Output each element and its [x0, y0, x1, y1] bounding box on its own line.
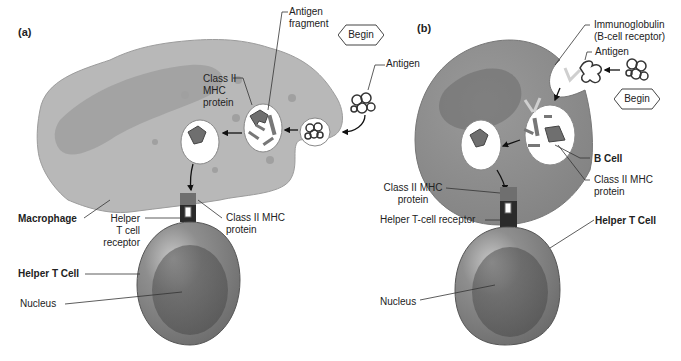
helper-t-receptor-label-b: Helper T-cell receptor — [380, 214, 475, 226]
label-line: protein — [380, 194, 446, 206]
label-line: receptor — [100, 237, 140, 249]
class2-mhc-inner-label: Class II MHC protein — [203, 73, 236, 109]
class2-mhc-outer-label: Class II MHC protein — [226, 212, 285, 236]
label-line: T cell — [100, 225, 140, 237]
label-line: fragment — [289, 18, 328, 30]
helper-t-cell-label-a: Helper T Cell — [18, 268, 79, 280]
macrophage-label: Macrophage — [18, 213, 77, 225]
begin-marker-b: Begin — [614, 88, 660, 110]
label-line: (B-cell receptor) — [594, 31, 665, 43]
immunoglobulin-icon — [565, 68, 580, 80]
diagram-art — [0, 0, 681, 361]
antigen-icon — [580, 61, 601, 82]
b-cell-label: B Cell — [594, 153, 622, 165]
mhc-protein-icon — [180, 193, 196, 205]
vesicle-antigen — [300, 118, 330, 146]
panel-a-label: (a) — [18, 26, 31, 38]
label-line: Class II MHC — [226, 212, 285, 224]
label-line: Helper — [100, 213, 140, 225]
label-line: Antigen — [289, 6, 328, 18]
label-line: Class II — [203, 73, 236, 85]
label-line: Class II MHC — [594, 174, 653, 186]
nucleus — [152, 245, 228, 335]
antigen-icon — [351, 93, 375, 113]
begin-label: Begin — [338, 29, 384, 40]
antigen-icon — [626, 59, 648, 80]
begin-label: Begin — [614, 93, 660, 104]
nucleus — [472, 247, 548, 337]
class2-mhc-left-label: Class II MHC protein — [380, 182, 446, 206]
label-line: protein — [203, 97, 236, 109]
antigen-fragment-label: Antigen fragment — [289, 6, 328, 30]
label-line: protein — [226, 224, 285, 236]
nucleus-label-a: Nucleus — [20, 298, 56, 310]
antigen-label-a: Antigen — [386, 58, 420, 70]
mhc-protein-icon — [500, 187, 517, 201]
class2-mhc-right-label: Class II MHC protein — [594, 174, 653, 198]
label-line: Immunoglobulin — [594, 19, 665, 31]
label-line: MHC — [203, 85, 236, 97]
immunoglobulin-label: Immunoglobulin (B-cell receptor) — [594, 19, 665, 43]
helper-t-receptor-label-a: Helper T cell receptor — [100, 213, 140, 249]
label-line: Class II MHC — [380, 182, 446, 194]
panel-b-label: (b) — [417, 22, 431, 34]
begin-marker-a: Begin — [338, 24, 384, 46]
nucleus-label-b: Nucleus — [380, 296, 416, 308]
antigen-label-b: Antigen — [595, 46, 629, 58]
label-line: protein — [594, 186, 653, 198]
helper-t-cell-label-b: Helper T Cell — [595, 215, 656, 227]
